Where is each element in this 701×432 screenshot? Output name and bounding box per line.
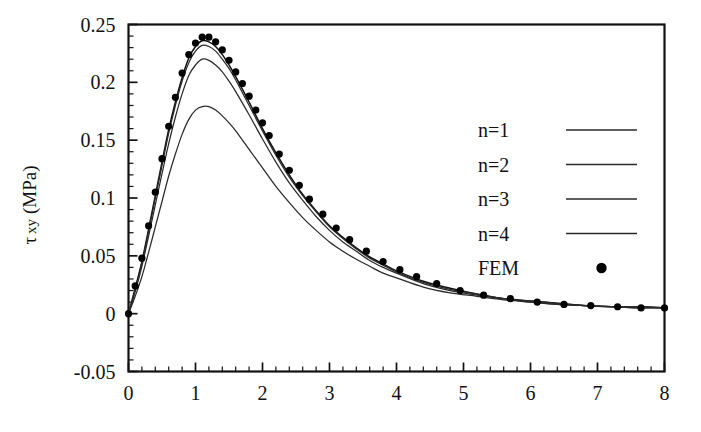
plot-frame — [129, 25, 665, 372]
y-tick-label: 0.15 — [81, 129, 116, 151]
fem-data-point — [614, 303, 621, 310]
legend-label: n=4 — [478, 223, 509, 245]
fem-data-point — [179, 69, 186, 76]
tau-unit: (MPa) — [19, 165, 41, 214]
fem-data-point — [319, 211, 326, 218]
fem-data-point — [158, 155, 165, 162]
x-tick-label: 5 — [459, 382, 469, 404]
fem-data-point — [239, 80, 246, 87]
fem-data-point — [380, 258, 387, 265]
axis-ticks — [129, 25, 665, 372]
fem-data-point — [457, 287, 464, 294]
fem-data-point — [534, 299, 541, 306]
fem-data-point — [266, 132, 273, 139]
fem-data-point — [219, 46, 226, 53]
legend-label: n=3 — [478, 188, 509, 210]
x-tick-label: 0 — [124, 382, 134, 404]
y-axis-title-group: τxy(MPa) — [19, 165, 41, 244]
fem-data-point — [286, 167, 293, 174]
fem-data-point — [587, 302, 594, 309]
fem-data-point — [246, 93, 253, 100]
x-tick-label: 2 — [258, 382, 268, 404]
fem-data-point — [172, 94, 179, 101]
legend-item-n2: n=2 — [478, 154, 637, 176]
fem-data-point — [125, 310, 132, 317]
fem-data-point — [333, 224, 340, 231]
x-tick-label: 8 — [660, 382, 670, 404]
legend-label: n=2 — [478, 154, 509, 176]
fem-marker-layer — [125, 34, 668, 318]
legend-item-n4: n=4 — [478, 223, 637, 245]
x-tick-label: 3 — [325, 382, 335, 404]
fem-data-point — [363, 248, 370, 255]
fem-data-point — [259, 119, 266, 126]
fem-data-point — [252, 106, 259, 113]
curve-n4 — [129, 106, 665, 313]
figure-container: -0.0500.050.10.150.20.25 012345678 τxy(M… — [0, 0, 701, 432]
tau-symbol: τ — [19, 237, 40, 245]
fem-data-point — [346, 236, 353, 243]
fem-data-point — [560, 301, 567, 308]
y-tick-label: 0.2 — [91, 71, 116, 93]
fem-data-point — [433, 280, 440, 287]
fem-data-point — [152, 189, 159, 196]
curve-series-layer — [129, 40, 665, 313]
fem-data-point — [192, 39, 199, 46]
y-tick-label: 0 — [106, 303, 116, 325]
legend-item-n3: n=3 — [478, 188, 637, 210]
fem-data-point — [306, 196, 313, 203]
x-axis-tick-labels: 012345678 — [124, 382, 670, 404]
fem-data-point — [276, 150, 283, 157]
fem-data-point — [507, 295, 514, 302]
legend-item-n1: n=1 — [478, 119, 637, 141]
chart-legend: n=1n=2n=3n=4FEM — [478, 119, 637, 279]
x-tick-label: 6 — [526, 382, 536, 404]
fem-data-point — [132, 282, 139, 289]
x-tick-label: 7 — [593, 382, 603, 404]
y-tick-label: 0.05 — [81, 245, 116, 267]
x-tick-label: 4 — [392, 382, 402, 404]
x-tick-label: 1 — [191, 382, 201, 404]
y-axis-tick-labels: -0.0500.050.10.150.20.25 — [74, 14, 116, 383]
legend-dot-sample — [596, 263, 606, 273]
fem-data-point — [413, 273, 420, 280]
legend-label: FEM — [478, 257, 519, 279]
fem-data-point — [199, 34, 206, 41]
y-tick-label: 0.1 — [91, 187, 116, 209]
shear-stress-plot: -0.0500.050.10.150.20.25 012345678 τxy(M… — [0, 0, 701, 432]
y-axis-title-text: τxy(MPa) — [19, 165, 41, 244]
fem-data-point — [661, 304, 668, 311]
y-tick-label: 0.25 — [81, 14, 116, 36]
fem-data-point — [185, 51, 192, 58]
curve-n3 — [129, 59, 665, 314]
fem-data-point — [232, 68, 239, 75]
fem-data-point — [165, 123, 172, 130]
fem-data-point — [480, 292, 487, 299]
y-axis-title: τxy(MPa) — [19, 165, 41, 244]
tau-subscript: xy — [23, 218, 39, 234]
fem-data-point — [296, 182, 303, 189]
legend-label: n=1 — [478, 119, 509, 141]
fem-data-point — [138, 255, 145, 262]
fem-data-point — [396, 266, 403, 273]
fem-data-point — [205, 34, 212, 41]
y-tick-label: -0.05 — [74, 361, 116, 383]
fem-data-point — [212, 38, 219, 45]
fem-data-point — [225, 57, 232, 64]
fem-data-point — [637, 304, 644, 311]
legend-item-fem: FEM — [478, 257, 607, 279]
fem-data-point — [145, 222, 152, 229]
